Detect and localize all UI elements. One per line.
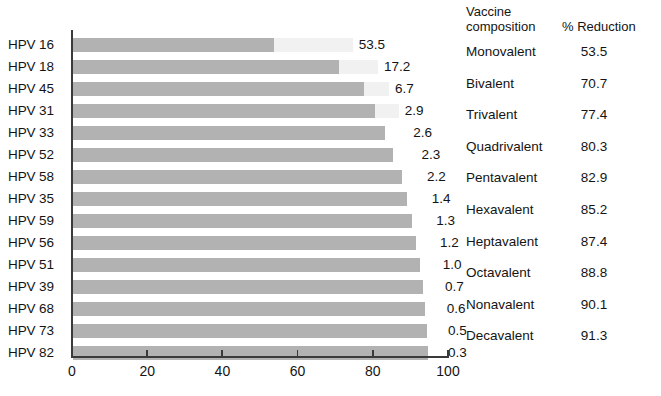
table-cell-reduction: 82.9: [566, 170, 622, 186]
table-cell-reduction: 88.8: [566, 265, 622, 281]
table-cell-reduction: 90.1: [566, 297, 622, 313]
figure-root: 53.517.26.72.92.62.32.21.41.31.21.00.70.…: [0, 0, 661, 396]
bar-hpv-33: [73, 126, 385, 140]
bar-hpv-58: [73, 170, 402, 184]
category-label-hpv-33: HPV 33: [8, 126, 66, 140]
bar-hpv-31: [73, 104, 375, 118]
table-row: Octavalent88.8: [466, 265, 661, 285]
bar-value-label: 1.4: [432, 192, 451, 206]
category-label-hpv-18: HPV 18: [8, 60, 66, 74]
bar-hpv-59: [73, 214, 412, 228]
bar-hpv-16: [73, 38, 274, 52]
table-cell-composition: Octavalent: [466, 265, 566, 281]
table-cell-reduction: 87.4: [566, 234, 622, 250]
table-header-composition-line2: composition: [466, 19, 558, 34]
bar-value-label: 0.7: [445, 280, 464, 294]
x-tick-label: 20: [124, 363, 170, 379]
category-label-hpv-51: HPV 51: [8, 258, 66, 272]
reduction-table: Vaccine composition % Reduction Monovale…: [466, 0, 661, 396]
bar-value-label: 2.9: [405, 104, 424, 118]
table-cell-reduction: 70.7: [566, 76, 622, 92]
table-cell-composition: Trivalent: [466, 107, 566, 123]
table-cell-composition: Hexavalent: [466, 202, 566, 218]
category-label-hpv-59: HPV 59: [8, 214, 66, 228]
bar-chart-panel: 53.517.26.72.92.62.32.21.41.31.21.00.70.…: [0, 0, 460, 396]
table-cell-composition: Monovalent: [466, 44, 566, 60]
table-cell-reduction: 53.5: [566, 44, 622, 60]
category-label-hpv-35: HPV 35: [8, 192, 66, 206]
table-row: Heptavalent87.4: [466, 234, 661, 254]
table-cell-reduction: 85.2: [566, 202, 622, 218]
bar-value-label: 0.3: [448, 346, 467, 360]
x-tick: [372, 350, 374, 358]
bar-value-label: 1.2: [440, 236, 459, 250]
x-tick-label: 100: [425, 363, 471, 379]
bar-hpv-68: [73, 302, 425, 316]
bar-hpv-51: [73, 258, 420, 272]
bar-hpv-56: [73, 236, 416, 250]
x-tick-label: 60: [275, 363, 321, 379]
x-tick: [297, 350, 299, 358]
table-row: Bivalent70.7: [466, 76, 661, 96]
x-tick-label: 80: [350, 363, 396, 379]
bar-value-label: 2.2: [427, 170, 446, 184]
table-cell-composition: Quadrivalent: [466, 139, 566, 155]
table-header-reduction: % Reduction: [562, 19, 661, 34]
bar-hpv-52: [73, 148, 393, 162]
bar-value-label: 53.5: [359, 38, 385, 52]
category-label-hpv-39: HPV 39: [8, 280, 66, 294]
category-label-hpv-52: HPV 52: [8, 148, 66, 162]
table-cell-composition: Nonavalent: [466, 297, 566, 313]
x-tick: [71, 350, 73, 358]
bar-hpv-39: [73, 280, 423, 294]
table-cell-reduction: 77.4: [566, 107, 622, 123]
table-row: Quadrivalent80.3: [466, 139, 661, 159]
category-label-hpv-58: HPV 58: [8, 170, 66, 184]
x-tick: [146, 350, 148, 358]
bar-value-label: 1.3: [436, 214, 455, 228]
category-label-hpv-73: HPV 73: [8, 324, 66, 338]
table-cell-reduction: 91.3: [566, 328, 622, 344]
bar-value-label: 17.2: [384, 60, 410, 74]
table-header-row: Vaccine composition % Reduction: [466, 4, 661, 42]
table-row: Pentavalent82.9: [466, 170, 661, 190]
category-label-hpv-68: HPV 68: [8, 302, 66, 316]
x-axis-line: [71, 356, 449, 358]
table-header-composition: Vaccine composition: [466, 4, 558, 34]
bar-value-label: 1.0: [443, 258, 462, 272]
bar-value-label: 2.6: [413, 126, 432, 140]
category-label-hpv-16: HPV 16: [8, 38, 66, 52]
table-row: Nonavalent90.1: [466, 297, 661, 317]
category-label-hpv-82: HPV 82: [8, 346, 66, 360]
table-header-composition-line1: Vaccine: [466, 4, 558, 19]
bar-value-label: 6.7: [395, 82, 414, 96]
table-cell-composition: Decavalent: [466, 328, 566, 344]
category-label-hpv-56: HPV 56: [8, 236, 66, 250]
table-row: Decavalent91.3: [466, 328, 661, 348]
bar-value-label: 0.6: [447, 302, 466, 316]
x-tick: [221, 350, 223, 358]
table-row: Trivalent77.4: [466, 107, 661, 127]
table-row: Monovalent53.5: [466, 44, 661, 64]
category-label-hpv-45: HPV 45: [8, 82, 66, 96]
bar-hpv-73: [73, 324, 427, 338]
bar-value-label: 0.5: [448, 324, 467, 338]
bar-hpv-18: [73, 60, 339, 74]
table-cell-composition: Pentavalent: [466, 170, 566, 186]
table-cell-reduction: 80.3: [566, 139, 622, 155]
category-label-hpv-31: HPV 31: [8, 104, 66, 118]
table-row: Hexavalent85.2: [466, 202, 661, 222]
x-tick: [447, 350, 449, 358]
table-cell-composition: Bivalent: [466, 76, 566, 92]
bar-value-label: 2.3: [422, 148, 441, 162]
bar-hpv-45: [73, 82, 364, 96]
x-tick-label: 0: [49, 363, 95, 379]
bar-hpv-35: [73, 192, 407, 206]
x-tick-label: 40: [199, 363, 245, 379]
table-cell-composition: Heptavalent: [466, 234, 566, 250]
